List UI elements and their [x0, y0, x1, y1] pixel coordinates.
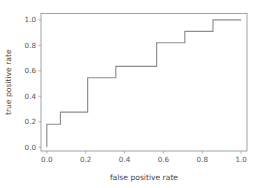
- x-tick-label: 0.6: [158, 155, 170, 164]
- roc-curve-line: [47, 20, 241, 147]
- y-tick-label: 0.0: [25, 143, 37, 152]
- roc-chart-svg: 0.00.20.40.60.81.0 0.00.20.40.60.81.0 fa…: [0, 0, 263, 188]
- x-tick-label: 1.0: [235, 155, 247, 164]
- y-tick-label: 0.6: [25, 66, 37, 75]
- roc-chart-figure: 0.00.20.40.60.81.0 0.00.20.40.60.81.0 fa…: [0, 0, 263, 188]
- axes-spines: [41, 14, 247, 152]
- y-tick-label: 0.8: [25, 41, 37, 50]
- y-tick-label: 1.0: [25, 15, 37, 24]
- y-tick-label: 0.4: [25, 92, 37, 101]
- plot-frame: [41, 14, 247, 152]
- y-tick-label: 0.2: [25, 117, 36, 126]
- x-tick-label: 0.0: [41, 155, 53, 164]
- x-axis-tick-labels: 0.00.20.40.60.81.0: [41, 155, 247, 164]
- x-tick-label: 0.8: [197, 155, 209, 164]
- x-axis-label: false positive rate: [110, 173, 178, 182]
- y-axis-label: true positive rate: [4, 49, 13, 115]
- x-tick-label: 0.2: [80, 155, 91, 164]
- y-axis-tick-labels: 0.00.20.40.60.81.0: [25, 15, 37, 151]
- x-tick-label: 0.4: [119, 155, 131, 164]
